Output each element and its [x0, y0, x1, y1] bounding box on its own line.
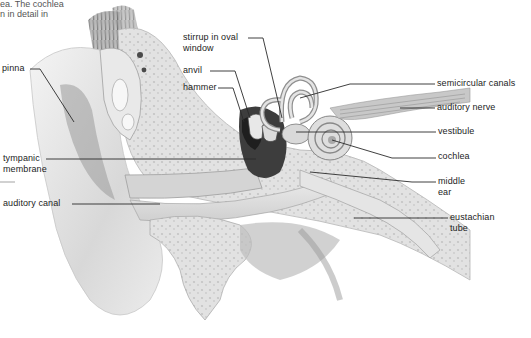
- leader-pinna: [30, 69, 74, 122]
- label-auditory-nerve: auditory nerve: [437, 102, 495, 113]
- label-middle-ear-line-1: middle: [438, 176, 465, 187]
- leader-cochlea: [332, 140, 436, 158]
- label-anvil: anvil: [183, 65, 202, 76]
- label-eustachian-line-2: tube: [450, 223, 495, 234]
- label-tympanic-membrane: tympanic membrane: [3, 153, 47, 174]
- leader-stirrup: [248, 38, 282, 118]
- ear-anatomy-diagram: ea. The cochlea n in detail in: [0, 0, 531, 338]
- label-vestibule: vestibule: [438, 126, 474, 137]
- label-pinna: pinna: [2, 63, 25, 74]
- label-middle-ear-line-2: ear: [438, 187, 465, 198]
- label-eustachian-line-1: eustachian: [450, 212, 495, 223]
- label-leader-lines: [0, 0, 531, 338]
- label-stirrup-in-oval-window: stirrup in oval window: [183, 32, 238, 53]
- label-auditory-canal: auditory canal: [3, 198, 60, 209]
- label-stirrup-line-1: stirrup in oval: [183, 32, 238, 43]
- leader-middle-ear: [310, 172, 436, 182]
- label-semicircular-canals: semicircular canals: [437, 78, 515, 89]
- leader-hammer: [218, 88, 244, 122]
- label-tympanic-line-1: tympanic: [3, 153, 47, 164]
- leader-semicircular: [300, 84, 435, 98]
- label-hammer: hammer: [183, 82, 217, 93]
- label-cochlea: cochlea: [438, 151, 470, 162]
- label-tympanic-line-2: membrane: [3, 164, 47, 175]
- label-middle-ear: middle ear: [438, 176, 465, 197]
- label-eustachian-tube: eustachian tube: [450, 212, 495, 233]
- label-stirrup-line-2: window: [183, 43, 238, 54]
- leader-anvil: [210, 71, 250, 118]
